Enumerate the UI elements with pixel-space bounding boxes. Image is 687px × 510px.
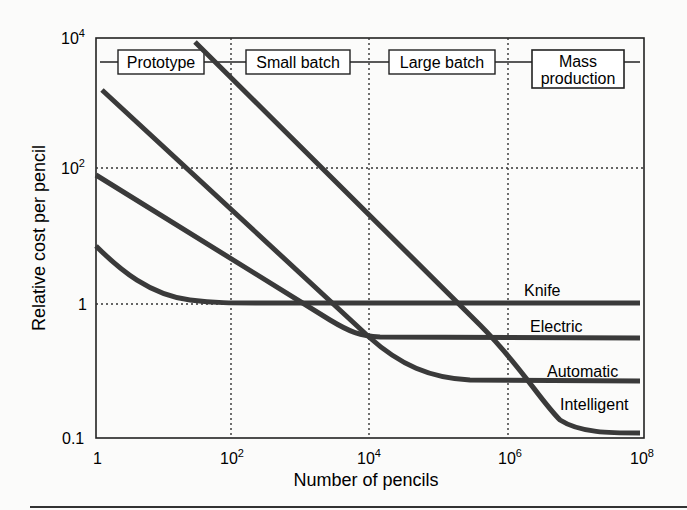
svg-text:1: 1 [78,296,87,313]
x-axis-title: Number of pencils [293,470,438,490]
phase-label: production [541,70,616,87]
phase-label: Mass [559,53,597,70]
svg-text:102: 102 [220,447,244,467]
svg-text:0.1: 0.1 [62,430,84,447]
phase-prototype: Prototype [118,50,204,74]
phase-label: Large batch [400,54,485,71]
label-automatic: Automatic [547,363,618,380]
y-axis-title: Relative cost per pencil [29,145,49,331]
y-tick-labels: 104 102 1 0.1 [61,27,87,447]
x-tick-labels: 1 102 104 106 108 [93,447,654,467]
label-intelligent: Intelligent [560,396,629,413]
svg-text:106: 106 [498,447,522,467]
phase-mass-production: Mass production [532,50,624,88]
series-electric [96,175,640,338]
chart: Prototype Small batch Large batch Mass p… [0,0,687,510]
phase-small-batch: Small batch [246,50,350,74]
phase-large-batch: Large batch [389,50,495,74]
svg-text:102: 102 [61,157,85,177]
phase-label: Prototype [127,54,196,71]
label-electric: Electric [530,318,582,335]
svg-text:104: 104 [357,447,381,467]
phase-label: Small batch [256,54,340,71]
label-knife: Knife [524,282,561,299]
svg-text:104: 104 [61,27,85,47]
svg-text:108: 108 [630,447,654,467]
svg-text:1: 1 [93,450,102,467]
